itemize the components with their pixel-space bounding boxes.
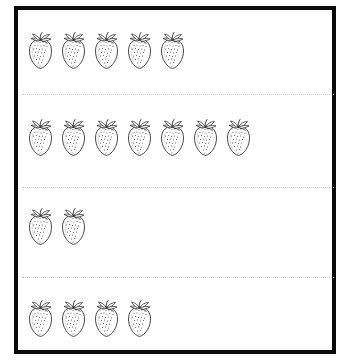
strawberry-icon <box>59 208 88 246</box>
strawberry-icon <box>59 119 88 157</box>
strawberry-icon <box>191 119 220 157</box>
fruit-strip-row-4 <box>26 300 158 338</box>
strawberry-icon <box>59 300 88 338</box>
strawberry-icon <box>125 119 154 157</box>
strawberry-icon <box>92 300 121 338</box>
strawberry-icon <box>158 32 187 70</box>
row-separator-3 <box>22 277 334 278</box>
fruit-strip-row-2 <box>26 119 257 157</box>
strawberry-icon <box>26 32 55 70</box>
worksheet-canvas <box>0 0 343 362</box>
strawberry-icon <box>224 119 253 157</box>
rows-container <box>18 10 332 350</box>
strawberry-icon <box>92 32 121 70</box>
strawberry-icon <box>158 119 187 157</box>
strawberry-icon <box>26 119 55 157</box>
row-separator-2 <box>22 187 334 188</box>
fruit-strip-row-1 <box>26 32 191 70</box>
strawberry-icon <box>125 32 154 70</box>
strawberry-icon <box>26 208 55 246</box>
worksheet-frame <box>14 6 336 354</box>
strawberry-icon <box>26 300 55 338</box>
strawberry-icon <box>59 32 88 70</box>
row-separator-1 <box>22 94 334 95</box>
fruit-strip-row-3 <box>26 208 92 246</box>
strawberry-icon <box>125 300 154 338</box>
strawberry-icon <box>92 119 121 157</box>
